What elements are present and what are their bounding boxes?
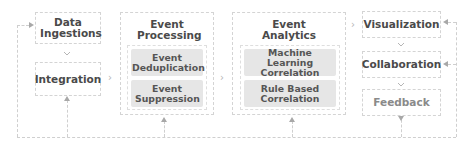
- event-processing-stage: Event Processing Event Deduplication Eve…: [120, 12, 214, 115]
- chevron-right-icon: ›: [220, 73, 224, 83]
- chevron-down-icon: [397, 82, 405, 87]
- feedback-loop-right-line: [456, 22, 457, 137]
- event-suppression-chip: Event Suppression: [131, 80, 203, 107]
- feedback-box: Feedback: [362, 89, 441, 116]
- event-processing-group: Event Deduplication Event Suppression: [127, 45, 207, 110]
- feedback-loop-bottom-line: [17, 137, 456, 138]
- collaboration-box: Collaboration: [362, 51, 441, 78]
- chevron-down-icon: [397, 42, 405, 47]
- chevron-right-icon: ›: [351, 20, 355, 30]
- event-analytics-group: Machine Learning Correlation Rule Based …: [240, 45, 340, 110]
- event-analytics-stage: Event Analytics Machine Learning Correla…: [232, 12, 346, 115]
- feedback-loop-left-top-line: [17, 25, 29, 26]
- arrow-down-icon: [398, 116, 404, 121]
- integration-label: Integration: [35, 74, 102, 85]
- feedback-to-visualization-line: [448, 22, 456, 23]
- rule-based-correlation-chip: Rule Based Correlation: [244, 80, 336, 107]
- processing-feedback-line: [164, 121, 165, 137]
- visualization-box: Visualization: [362, 11, 441, 38]
- chevron-down-icon: [63, 51, 71, 56]
- arrow-left-icon: [443, 19, 448, 25]
- analytics-feedback-line: [292, 121, 293, 137]
- feedback-to-collaboration-line: [448, 64, 456, 65]
- event-processing-title: Event Processing: [121, 19, 213, 41]
- feedback-loop-left-line: [17, 25, 18, 137]
- arrow-up-icon: [161, 117, 167, 122]
- event-analytics-title: Event Analytics: [233, 19, 345, 41]
- arrow-up-icon: [64, 96, 70, 101]
- machine-learning-correlation-chip: Machine Learning Correlation: [244, 49, 336, 76]
- data-ingestions-label: Data Ingestions: [40, 17, 96, 39]
- event-deduplication-chip: Event Deduplication: [131, 49, 203, 76]
- data-ingestions-box: Data Ingestions: [35, 12, 101, 44]
- integration-feedback-line: [67, 100, 68, 137]
- arrow-up-icon: [289, 117, 295, 122]
- chevron-right-icon: ›: [108, 73, 112, 83]
- integration-box: Integration: [35, 62, 101, 96]
- arrow-left-icon: [443, 61, 448, 67]
- arrow-right-icon: [29, 22, 34, 28]
